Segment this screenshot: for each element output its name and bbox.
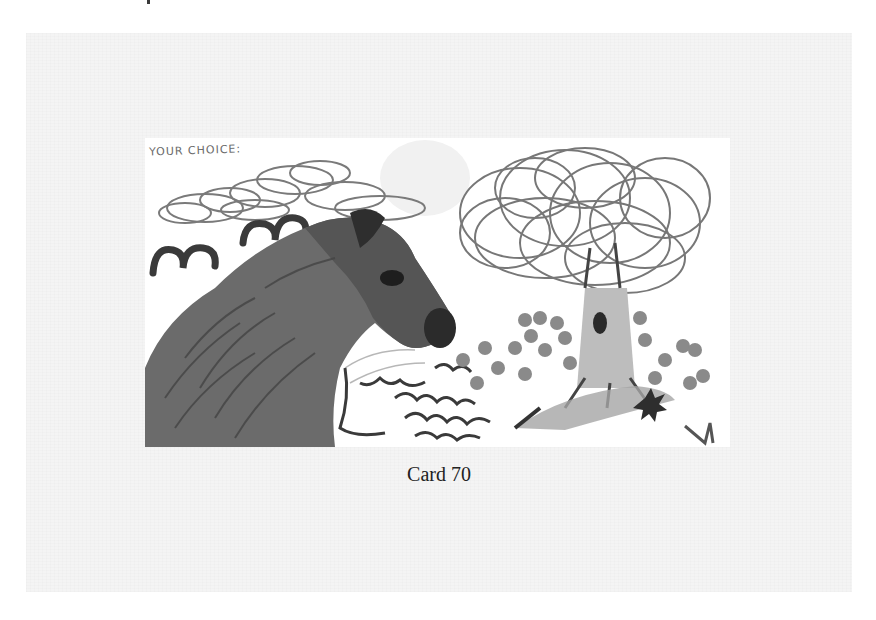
card-illustration: YOUR CHOICE: — [145, 138, 730, 447]
card-panel: YOUR CHOICE: Card 70 — [26, 33, 852, 592]
tree-icon — [460, 148, 710, 293]
cropped-text-fragment — [147, 0, 150, 4]
drawing-svg — [145, 138, 730, 447]
card-caption: Card 70 — [26, 463, 852, 486]
horse-icon — [145, 209, 456, 447]
ground-icon — [515, 386, 713, 443]
